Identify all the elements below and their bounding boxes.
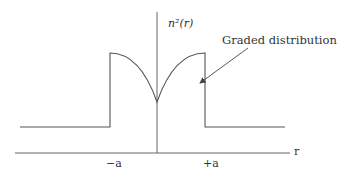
tick-label-plus-a: +a: [203, 158, 219, 169]
annotation-arrow: [200, 48, 248, 83]
x-axis-label: r: [294, 146, 299, 157]
annotation-label: Graded distribution: [222, 35, 337, 47]
y-axis-label: n²(r): [168, 18, 193, 29]
tick-label-minus-a: −a: [106, 158, 122, 169]
index-profile-curve: [20, 53, 285, 127]
